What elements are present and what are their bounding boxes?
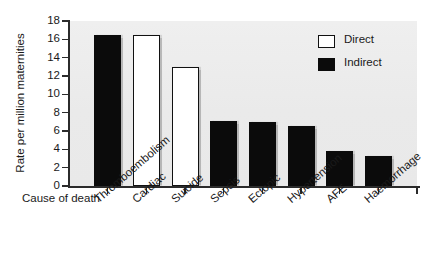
y-axis-tick-label: 14 [34, 50, 60, 62]
y-axis-tick-label: 8 [34, 105, 60, 117]
y-axis-tick-label-wrap: 10 [32, 94, 60, 95]
y-axis-tick [62, 112, 68, 114]
chart-figure: Rate per million maternities 02468101214… [0, 0, 427, 279]
y-axis-tick-label: 12 [34, 69, 60, 81]
bar-suicide [172, 67, 199, 186]
y-axis-tick [62, 75, 68, 77]
legend-item-direct: Direct [318, 33, 418, 53]
legend-swatch-direct-icon [318, 35, 335, 48]
y-axis-tick-label-wrap: 14 [32, 58, 60, 59]
y-axis-tick [62, 57, 68, 59]
y-axis-tick-label: 0 [34, 179, 60, 191]
y-axis-tick-label-wrap: 12 [32, 76, 60, 77]
y-axis-tick-label: 6 [34, 124, 60, 136]
y-axis-tick [62, 167, 68, 169]
y-axis-tick-label-wrap: 0 [32, 186, 60, 187]
y-axis-tick-label: 18 [34, 14, 60, 26]
y-axis-title: Rate per million maternities [14, 13, 30, 193]
legend-swatch-indirect-icon [318, 58, 335, 71]
y-axis-tick-label: 2 [34, 160, 60, 172]
legend-item-indirect: Indirect [318, 56, 418, 76]
y-axis-tick-label-wrap: 4 [32, 149, 60, 150]
y-axis-tick [62, 94, 68, 96]
y-axis-tick-label-wrap: 6 [32, 131, 60, 132]
x-axis-tick [416, 188, 418, 194]
y-axis-tick-label: 16 [34, 32, 60, 44]
y-axis-tick-label-wrap: 18 [32, 21, 60, 22]
y-axis-tick-label-wrap: 2 [32, 168, 60, 169]
bar-thromboembolism [94, 35, 121, 186]
y-axis-tick [62, 20, 68, 22]
y-axis-line [68, 20, 70, 187]
legend-label-indirect: Indirect [344, 56, 382, 68]
y-axis-tick-label: 4 [34, 142, 60, 154]
y-axis-tick [62, 185, 68, 187]
y-axis-tick-label: 10 [34, 87, 60, 99]
y-axis-tick-label-wrap: 16 [32, 39, 60, 40]
y-axis-tick [62, 130, 68, 132]
y-axis-tick [62, 149, 68, 151]
legend-label-direct: Direct [344, 33, 374, 45]
y-axis-tick [62, 39, 68, 41]
y-axis-tick-label-wrap: 8 [32, 113, 60, 114]
legend: Direct Indirect [318, 33, 418, 79]
x-axis-title: Cause of death [22, 192, 100, 204]
